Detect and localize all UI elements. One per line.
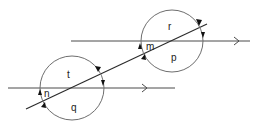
- lower-arrowhead-left-icon: [38, 89, 42, 95]
- label-m: m: [146, 41, 154, 52]
- upper-parallel-line: [71, 37, 250, 45]
- label-r: r: [168, 21, 172, 32]
- label-n: n: [44, 88, 50, 99]
- lower-parallel-line: [8, 84, 175, 92]
- upper-arrowhead-right-icon: [201, 32, 205, 38]
- transversal-line: [26, 24, 207, 109]
- lower-arrowhead-right-icon: [101, 80, 105, 86]
- label-q: q: [71, 102, 77, 113]
- label-p: p: [171, 52, 177, 63]
- label-t: t: [67, 69, 70, 80]
- lower-arrowhead-top-right-icon: [95, 66, 101, 72]
- diagram-canvas: t n q r m p: [0, 0, 262, 122]
